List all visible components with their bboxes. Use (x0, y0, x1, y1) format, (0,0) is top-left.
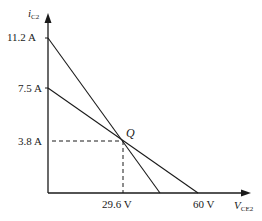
steep-load-line (48, 38, 160, 193)
load-line-diagram: iC2 VCE2 11.2 A 7.5 A 3.8 A 29.6 V 60 V … (0, 0, 262, 221)
y-tick-3-8: 3.8 A (18, 136, 42, 147)
q-point-label: Q (126, 127, 135, 139)
y-tick-11-2: 11.2 A (7, 32, 36, 43)
y-tick-7-5: 7.5 A (18, 83, 42, 94)
x-axis-arrow-icon (241, 190, 251, 197)
x-axis-label: VCE2 (234, 200, 253, 213)
y-axis-label: iC2 (28, 8, 39, 21)
x-tick-29-6: 29.6 V (102, 199, 132, 210)
plot-canvas (0, 0, 262, 221)
x-tick-60: 60 V (193, 199, 215, 210)
y-axis-arrow-icon (45, 13, 52, 23)
